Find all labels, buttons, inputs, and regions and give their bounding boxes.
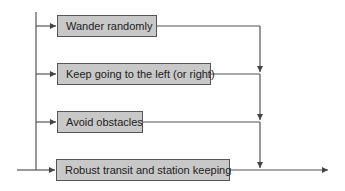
behavior-box-wander: Wander randomly	[57, 15, 157, 37]
behavior-label: Keep going to the left (or right)	[66, 68, 215, 80]
behavior-box-avoid-obstacles: Avoid obstacles	[57, 111, 143, 133]
behavior-label: Avoid obstacles	[66, 116, 143, 128]
behavior-box-robust-transit: Robust transit and station keeping	[56, 159, 230, 181]
behavior-box-keep-going: Keep going to the left (or right)	[57, 63, 211, 85]
behavior-label: Wander randomly	[66, 20, 152, 32]
behavior-label: Robust transit and station keeping	[65, 164, 231, 176]
